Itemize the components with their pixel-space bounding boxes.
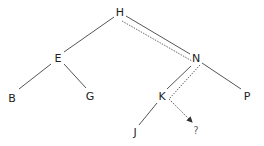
node-E: E	[55, 53, 62, 64]
node-B: B	[8, 93, 16, 104]
search-path-K-new	[169, 99, 192, 122]
node-J: J	[133, 127, 136, 138]
edge-E-G	[64, 64, 86, 88]
edge-H-E	[64, 17, 114, 52]
tree-edges	[19, 16, 241, 125]
node-G: G	[86, 91, 95, 102]
edge-N-K	[167, 66, 191, 89]
node-unknown: ?	[193, 126, 198, 136]
node-N: N	[192, 53, 200, 64]
edge-N-P	[202, 63, 241, 89]
node-K: K	[158, 91, 165, 102]
search-path-H-N	[122, 21, 192, 61]
edge-K-J	[139, 103, 157, 125]
search-path	[122, 21, 200, 122]
edge-H-N	[126, 16, 190, 54]
node-H: H	[116, 7, 124, 18]
tree-diagram	[0, 0, 264, 146]
node-P: P	[244, 91, 251, 102]
edge-E-B	[19, 64, 51, 89]
